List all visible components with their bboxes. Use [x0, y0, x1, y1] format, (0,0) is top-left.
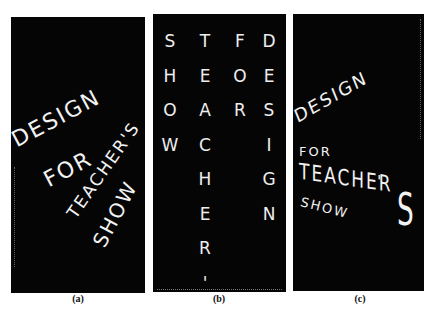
letter: H [196, 162, 214, 197]
caption-b: (b) [199, 293, 239, 304]
caption-c: (c) [340, 293, 380, 304]
letter: F [231, 24, 249, 59]
word-for: FOR [299, 144, 332, 159]
word-design: DESIGN [11, 84, 104, 152]
letter: N [260, 197, 278, 232]
panel-c: DESIGN FOR TEACHER ' S SHOW [293, 14, 424, 291]
noise-dots [14, 167, 16, 267]
letter: E [196, 197, 214, 232]
noise-dots [420, 19, 422, 139]
letter: E [260, 59, 278, 94]
column-for: F O R [231, 24, 249, 128]
column-design: D E S I G N [260, 24, 278, 231]
panel-a: DESIGN FOR TEACHER'S SHOW [11, 17, 145, 293]
letter: S [161, 24, 179, 59]
letter: W [161, 128, 179, 163]
column-show: S H O W [161, 24, 179, 162]
letter: I [260, 128, 278, 163]
word-show: SHOW [299, 194, 350, 220]
letter: O [161, 93, 179, 128]
letter-s: S [397, 184, 415, 235]
apostrophe: ' [377, 172, 383, 191]
letter: E [196, 59, 214, 94]
panel-b: S H O W T E A C H E R ' S F O R D E S I … [153, 14, 286, 292]
noise-dots [157, 288, 282, 290]
caption-a: (a) [58, 293, 98, 304]
letter: H [161, 59, 179, 94]
letter: T [196, 24, 214, 59]
letter: O [231, 59, 249, 94]
letter: D [260, 24, 278, 59]
letter: S [260, 93, 278, 128]
letter: G [260, 162, 278, 197]
letter: C [196, 128, 214, 163]
word-design: DESIGN [293, 66, 370, 127]
letter: R [196, 231, 214, 266]
letter: A [196, 93, 214, 128]
letter: R [231, 93, 249, 128]
column-teachers: T E A C H E R ' S [196, 24, 214, 292]
